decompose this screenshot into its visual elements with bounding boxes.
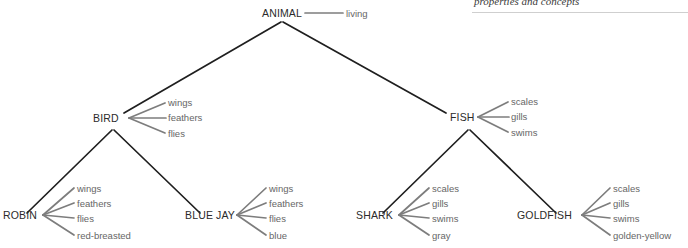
semantic-network-diagram: properties and concepts (0, 0, 688, 248)
prop-edge-goldfish-gills (582, 203, 610, 215)
prop-edge-shark-gills (399, 203, 429, 215)
node-fish[interactable]: FISH (450, 112, 475, 123)
property-bluejay-flies: flies (269, 214, 286, 224)
property-bird-flies: flies (168, 129, 185, 139)
property-goldfish-gills: gills (613, 199, 629, 209)
property-fish-gills: gills (511, 112, 527, 122)
edge-fish-goldfish (470, 130, 556, 213)
property-fish-swims: swims (511, 128, 537, 138)
property-robin-wings: wings (77, 184, 101, 194)
property-shark-swims: swims (432, 214, 458, 224)
header-divider-rule (472, 12, 688, 13)
prop-edge-bird-flies (129, 118, 165, 133)
property-bluejay-wings: wings (269, 184, 293, 194)
prop-edge-fish-swims (478, 117, 508, 132)
prop-edge-robin-flies (43, 215, 74, 218)
property-bird-feathers: feathers (168, 113, 202, 123)
property-goldfish-scales: scales (613, 184, 640, 194)
figure-caption: properties and concepts (474, 0, 579, 7)
prop-edge-fish-scales (478, 102, 508, 117)
node-goldfish[interactable]: GOLDFISH (517, 210, 572, 221)
property-shark-gray: gray (432, 231, 450, 241)
edge-fish-shark (383, 130, 468, 213)
property-animal-living: living (346, 9, 368, 19)
property-shark-scales: scales (432, 184, 459, 194)
property-fish-scales: scales (511, 97, 538, 107)
prop-edge-bluejay-blue (237, 215, 266, 235)
edge-layer (0, 0, 688, 248)
node-robin[interactable]: ROBIN (3, 210, 37, 221)
property-edges (43, 13, 610, 235)
property-shark-gills: gills (432, 199, 448, 209)
edge-bird-bluejay (114, 130, 200, 213)
prop-edge-robin-feathers (43, 203, 74, 215)
prop-edge-shark-scales (399, 188, 429, 215)
node-animal[interactable]: ANIMAL (262, 8, 302, 19)
node-bird[interactable]: BIRD (93, 113, 119, 124)
property-goldfish-swims: swims (613, 214, 639, 224)
prop-edge-bird-wings (129, 103, 165, 118)
prop-edge-goldfish-scales (582, 188, 610, 215)
prop-edge-goldfish-golden-yellow (582, 215, 610, 235)
property-bluejay-blue: blue (269, 231, 287, 241)
property-bluejay-feathers: feathers (269, 199, 303, 209)
property-robin-flies: flies (77, 214, 94, 224)
edge-animal-bird (124, 22, 281, 113)
edge-animal-fish (283, 22, 446, 113)
prop-edge-shark-gray (399, 215, 429, 235)
node-shark[interactable]: SHARK (356, 210, 393, 221)
prop-edge-robin-wings (43, 188, 74, 215)
property-goldfish-golden-yellow: golden-yellow (613, 231, 671, 241)
node-blue-jay[interactable]: BLUE JAY (185, 210, 235, 221)
prop-edge-bluejay-feathers (237, 203, 266, 215)
prop-edge-shark-swims (399, 215, 429, 218)
prop-edge-bluejay-wings (237, 188, 266, 215)
property-bird-wings: wings (168, 98, 192, 108)
prop-edge-goldfish-swims (582, 215, 610, 218)
property-robin-red-breasted: red-breasted (77, 231, 131, 241)
property-robin-feathers: feathers (77, 199, 111, 209)
prop-edge-robin-red-breasted (43, 215, 74, 235)
prop-edge-bluejay-flies (237, 215, 266, 218)
